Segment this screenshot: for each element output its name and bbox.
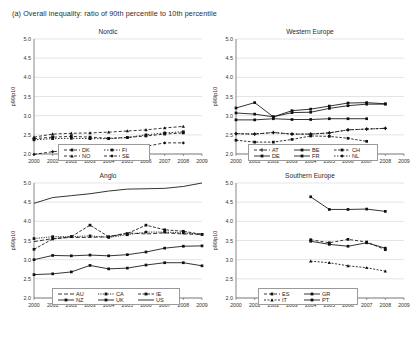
legend-swatch-no-icon xyxy=(64,153,80,159)
legend-label-uk: UK xyxy=(116,297,124,303)
legend-label-nl: NL xyxy=(352,153,359,159)
svg-text:p90/p10: p90/p10 xyxy=(10,87,16,107)
legend-label-se: SE xyxy=(122,153,129,159)
svg-text:4.5: 4.5 xyxy=(226,55,234,61)
legend-swatch-de-icon xyxy=(254,153,270,159)
legend-swatch-us-icon xyxy=(138,297,154,303)
legend-swatch-pt-icon xyxy=(304,297,320,303)
legend-swatch-se-icon xyxy=(104,153,120,159)
svg-text:2009: 2009 xyxy=(398,302,410,308)
svg-text:2.5: 2.5 xyxy=(226,132,234,138)
svg-text:5.0: 5.0 xyxy=(226,36,234,42)
svg-text:3.0: 3.0 xyxy=(226,113,234,119)
legend-western-europe: ATBECHDEFRNL xyxy=(248,144,378,161)
legend-label-it: IT xyxy=(282,297,287,303)
legend-item-no: NO xyxy=(64,153,100,159)
svg-text:2009: 2009 xyxy=(196,302,208,308)
svg-text:p90/p10: p90/p10 xyxy=(212,231,218,251)
figure-caption: (a) Overall inequality: ratio of 90th pe… xyxy=(12,9,217,18)
svg-text:2009: 2009 xyxy=(196,158,208,164)
legend-nordic: DKFINOSE xyxy=(58,144,150,161)
legend-southern-europe: ESGRITPT xyxy=(258,288,358,305)
legend-item-nz: NZ xyxy=(58,297,94,303)
figure-root: (a) Overall inequality: ratio of 90th pe… xyxy=(0,0,415,343)
svg-text:2000: 2000 xyxy=(28,302,40,308)
legend-label-fr: FR xyxy=(312,153,319,159)
svg-text:2000: 2000 xyxy=(230,302,242,308)
svg-text:3.5: 3.5 xyxy=(24,94,32,100)
svg-text:2.5: 2.5 xyxy=(24,132,32,138)
legend-item-se: SE xyxy=(104,153,140,159)
svg-text:2000: 2000 xyxy=(230,158,242,164)
legend-swatch-uk-icon xyxy=(98,297,114,303)
legend-item-us: US xyxy=(138,297,174,303)
legend-item-it: IT xyxy=(264,297,300,303)
svg-text:3.5: 3.5 xyxy=(226,238,234,244)
svg-text:4.0: 4.0 xyxy=(226,74,234,80)
legend-swatch-fr-icon xyxy=(294,153,310,159)
svg-text:2007: 2007 xyxy=(361,302,373,308)
legend-swatch-nl-icon xyxy=(334,153,350,159)
legend-swatch-nz-icon xyxy=(58,297,74,303)
svg-text:4.5: 4.5 xyxy=(24,199,32,205)
svg-text:p90/p10: p90/p10 xyxy=(212,87,218,107)
svg-text:2.5: 2.5 xyxy=(226,276,234,282)
svg-text:5.0: 5.0 xyxy=(24,180,32,186)
legend-swatch-it-icon xyxy=(264,297,280,303)
svg-text:p90/p10: p90/p10 xyxy=(10,231,16,251)
legend-label-pt: PT xyxy=(322,297,329,303)
svg-text:3.5: 3.5 xyxy=(226,94,234,100)
svg-text:2.0: 2.0 xyxy=(24,151,32,157)
svg-text:4.0: 4.0 xyxy=(24,74,32,80)
svg-text:4.0: 4.0 xyxy=(226,218,234,224)
svg-text:2008: 2008 xyxy=(380,158,392,164)
legend-anglo: AUCAIENZUKUS xyxy=(52,288,180,305)
legend-item-nl: NL xyxy=(334,153,370,159)
legend-item-fr: FR xyxy=(294,153,330,159)
svg-text:2.0: 2.0 xyxy=(226,295,234,301)
svg-text:2001: 2001 xyxy=(47,158,59,164)
legend-label-us: US xyxy=(156,297,164,303)
legend-item-uk: UK xyxy=(98,297,134,303)
svg-text:4.0: 4.0 xyxy=(24,218,32,224)
svg-text:3.0: 3.0 xyxy=(24,257,32,263)
svg-text:2000: 2000 xyxy=(28,158,40,164)
svg-text:3.0: 3.0 xyxy=(226,257,234,263)
svg-text:5.0: 5.0 xyxy=(226,180,234,186)
svg-text:2008: 2008 xyxy=(380,302,392,308)
legend-label-nz: NZ xyxy=(76,297,83,303)
svg-text:2.5: 2.5 xyxy=(24,276,32,282)
svg-text:4.5: 4.5 xyxy=(24,55,32,61)
legend-item-pt: PT xyxy=(304,297,340,303)
svg-text:2008: 2008 xyxy=(178,158,190,164)
svg-text:3.5: 3.5 xyxy=(24,238,32,244)
svg-text:5.0: 5.0 xyxy=(24,36,32,42)
legend-label-de: DE xyxy=(272,153,280,159)
legend-label-no: NO xyxy=(82,153,90,159)
svg-text:2.0: 2.0 xyxy=(24,295,32,301)
svg-text:2.0: 2.0 xyxy=(226,151,234,157)
legend-item-de: DE xyxy=(254,153,290,159)
svg-text:3.0: 3.0 xyxy=(24,113,32,119)
svg-text:2007: 2007 xyxy=(159,158,171,164)
svg-text:2009: 2009 xyxy=(398,158,410,164)
svg-text:4.5: 4.5 xyxy=(226,199,234,205)
